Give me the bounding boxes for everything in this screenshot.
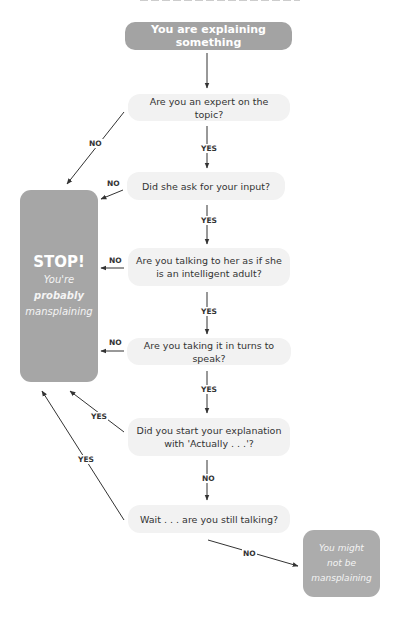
edge-label-q6-no: NO [242, 549, 257, 558]
stop-line2: probably [34, 288, 84, 304]
question-intelligent-adult: Are you talking to her as if she is an i… [128, 248, 290, 286]
edge-label-q5-no: NO [201, 474, 216, 483]
question-label-line2: is an intelligent adult? [156, 267, 262, 280]
end-line2: not be [327, 556, 356, 571]
edge-label-q3-yes: YES [200, 307, 218, 316]
edge-label-q3-no: NO [108, 256, 123, 265]
edge-label-q5-yes: YES [90, 412, 108, 421]
start-node: You are explaining something [125, 22, 292, 50]
question-label: Wait . . . are you still talking? [140, 513, 278, 526]
question-still-talking: Wait . . . are you still talking? [128, 505, 290, 533]
end-node: You might not be mansplaining [303, 530, 380, 597]
question-label-line1: Did you start your explanation [137, 424, 282, 437]
question-label: Are you taking it in turns to speak? [133, 339, 285, 365]
question-asked-input: Did she ask for your input? [127, 172, 285, 200]
flowchart: You are explaining something Are you an … [0, 0, 397, 618]
edge-label-q4-no: NO [108, 338, 123, 347]
stop-title: STOP! [33, 252, 85, 272]
start-label: You are explaining something [125, 23, 292, 49]
end-line1: You might [319, 541, 364, 556]
end-line3: mansplaining [311, 571, 372, 586]
stop-node: STOP! You're probably mansplaining [20, 190, 98, 382]
edge-label-q6-yes: YES [77, 455, 95, 464]
question-expert: Are you an expert on the topic? [128, 94, 290, 121]
stop-line3: mansplaining [25, 304, 92, 320]
edge-label-q1-yes: YES [200, 144, 218, 153]
edge-label-q2-no: NO [106, 179, 121, 188]
edge-label-q1-no: NO [88, 139, 103, 148]
edge-label-q4-yes: YES [200, 385, 218, 394]
question-label-line2: with 'Actually . . .'? [164, 437, 254, 450]
question-label: Are you an expert on the topic? [134, 95, 284, 121]
question-label-line1: Are you talking to her as if she [136, 254, 282, 267]
stop-line1: You're [44, 272, 74, 288]
question-label: Did she ask for your input? [142, 180, 270, 193]
question-taking-turns: Are you taking it in turns to speak? [127, 338, 291, 365]
edge-label-q2-yes: YES [200, 216, 218, 225]
question-actually: Did you start your explanation with 'Act… [128, 418, 290, 456]
